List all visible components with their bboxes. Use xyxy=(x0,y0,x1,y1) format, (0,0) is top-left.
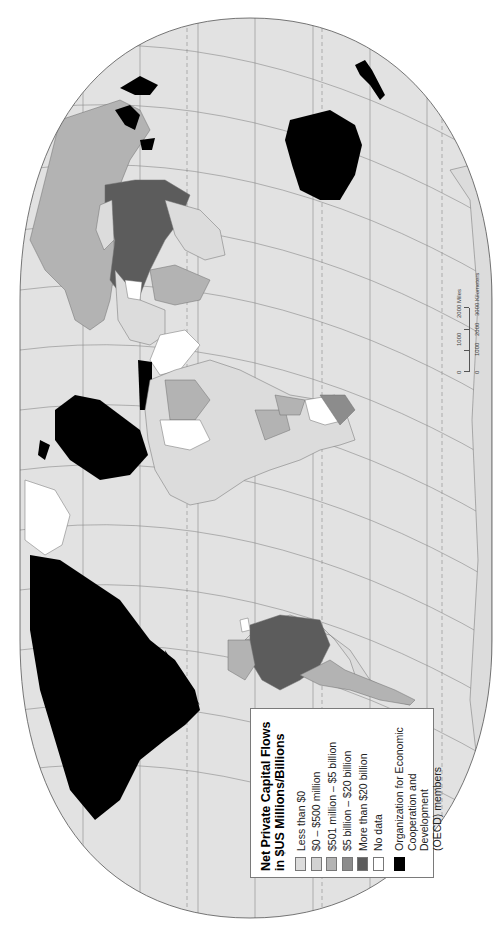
legend-title-line2: in $US Millions/Billions xyxy=(273,717,287,871)
scale-km-1000: 1000 xyxy=(474,343,480,356)
legend-item-0-500m: $0 – $500 million xyxy=(309,717,325,871)
scale-miles-1000: 1000 xyxy=(456,333,462,346)
swatch xyxy=(373,857,384,871)
legend-label: No data xyxy=(372,814,384,851)
legend-item-less-than-0: Less than $0 xyxy=(293,717,309,871)
swatch xyxy=(357,857,368,871)
scale-km-0: 0 xyxy=(474,371,480,374)
legend-oecd-line2: Cooperation and Development xyxy=(406,717,431,851)
swatch xyxy=(311,857,322,871)
swatch xyxy=(342,857,353,871)
legend-oecd-line3: (OECD) members xyxy=(431,717,444,851)
scale-miles-0: 0 xyxy=(456,371,462,374)
legend-oecd-line1: Organization for Economic xyxy=(393,717,406,851)
swatch xyxy=(326,857,337,871)
legend-label: $5 billion – $20 billion xyxy=(341,751,353,851)
legend-item-5b-20b: $5 billion – $20 billion xyxy=(340,717,356,871)
scale-km-3000: 3000 Kilometers xyxy=(474,273,480,316)
swatch xyxy=(295,857,306,871)
legend: Net Private Capital Flows in $US Million… xyxy=(250,708,434,878)
legend-label: $0 – $500 million xyxy=(310,772,322,851)
scale-km-2000: 2000 xyxy=(474,323,480,336)
legend-title-line1: Net Private Capital Flows xyxy=(259,717,273,871)
venezuela xyxy=(240,618,250,632)
swatch xyxy=(394,857,405,871)
scale-miles-2000: 2000 Miles xyxy=(456,289,462,318)
legend-label: Less than $0 xyxy=(295,791,307,851)
legend-item-oecd: Organization for Economic Cooperation an… xyxy=(393,717,443,871)
legend-label: $501 million – $5 billion xyxy=(326,742,338,851)
legend-title: Net Private Capital Flows in $US Million… xyxy=(259,717,287,871)
legend-item-501m-5b: $501 million – $5 billion xyxy=(324,717,340,871)
legend-item-more-than-20b: More than $20 billion xyxy=(355,717,371,871)
legend-label: More than $20 billion xyxy=(357,754,369,851)
legend-item-no-data: No data xyxy=(371,717,387,871)
scale-bar: 0 1000 2000 Miles 0 1000 2000 3000 Kilom… xyxy=(452,286,492,376)
